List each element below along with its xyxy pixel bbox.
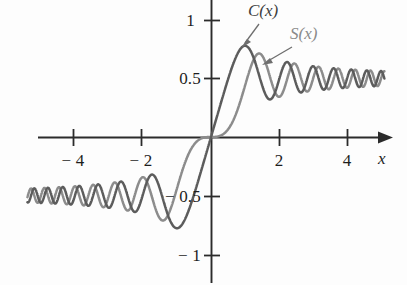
y-tick-label-neg0point5: − 0.5 — [165, 188, 201, 205]
fresnel-integral-figure: 1 0.5 − 0.5 − 1 − 4 − 2 2 4 x C(x) S(x) — [0, 0, 407, 285]
x-axis-arrowhead — [378, 132, 393, 144]
annotation-leader-c — [241, 24, 259, 48]
curve-label-c: C(x) — [248, 2, 278, 19]
x-tick-label-2: 2 — [275, 152, 284, 169]
y-tick-label-1: 1 — [186, 12, 195, 29]
x-tick-label-neg4: − 4 — [62, 152, 85, 169]
x-tick-label-neg2: − 2 — [130, 152, 153, 169]
curve-label-s: S(x) — [290, 25, 317, 42]
y-tick-label-0point5: 0.5 — [179, 70, 201, 87]
y-tick-label-neg1: − 1 — [178, 247, 201, 264]
x-tick-label-4: 4 — [343, 152, 352, 169]
x-axis-label: x — [378, 150, 386, 167]
plot-canvas — [0, 0, 407, 285]
y-axis — [204, 0, 220, 283]
